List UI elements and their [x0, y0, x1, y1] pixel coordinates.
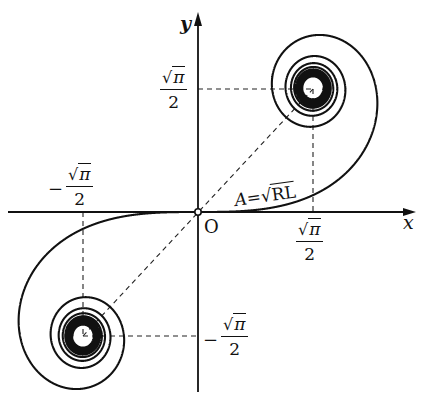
- lower-x-tick-label: √π 2: [66, 163, 93, 209]
- denominator: 2: [74, 187, 85, 209]
- y-axis-label: y: [180, 14, 191, 33]
- upper-x-tick-label: √π 2: [296, 218, 323, 264]
- lower-y-tick-label: √π 2: [221, 313, 248, 359]
- upper-y-tick-label: √π 2: [160, 66, 187, 112]
- x-axis-label: x: [403, 213, 414, 232]
- radical-sign: √: [162, 68, 172, 87]
- origin-marker: [195, 209, 201, 215]
- radical-sign: √: [223, 315, 233, 334]
- radical-sign: √: [68, 165, 78, 184]
- pi-symbol: π: [308, 218, 321, 239]
- y-axis-arrow-icon: [194, 12, 202, 26]
- pi-symbol: π: [78, 163, 91, 184]
- denominator: 2: [229, 337, 240, 359]
- lower-x-tick-sign: −: [48, 178, 63, 199]
- lower-y-tick-sign: −: [203, 329, 218, 350]
- denominator: 2: [304, 242, 315, 264]
- denominator: 2: [168, 90, 179, 112]
- pi-symbol: π: [233, 313, 246, 334]
- radical-sign: √: [298, 220, 308, 239]
- curve-label-radicand: RL: [270, 181, 297, 205]
- origin-label: O: [204, 218, 219, 236]
- pi-symbol: π: [172, 66, 185, 87]
